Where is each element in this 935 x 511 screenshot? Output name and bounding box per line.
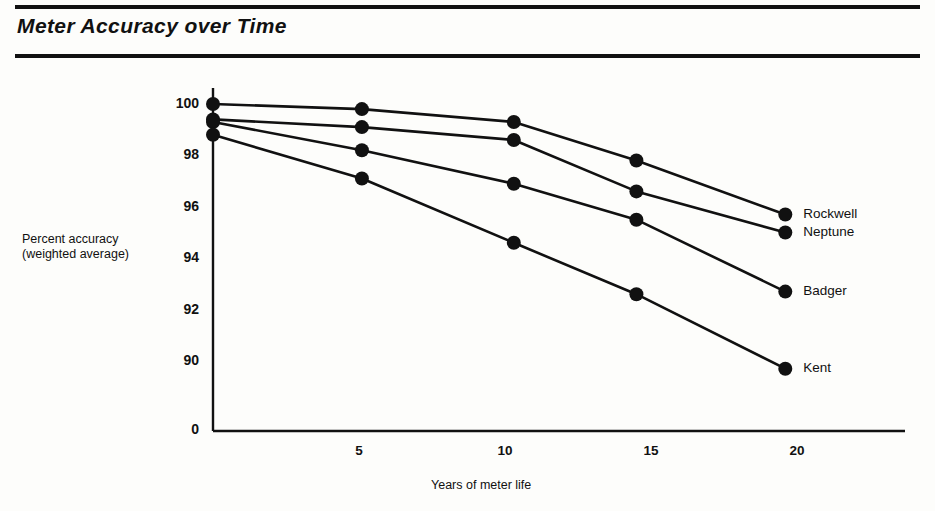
data-point-neptune-4 — [778, 226, 792, 240]
data-point-badger-4 — [778, 285, 792, 299]
data-point-rockwell-2 — [507, 115, 521, 129]
x-tick-label-20: 20 — [777, 443, 817, 458]
data-point-kent-0 — [206, 128, 220, 142]
line-chart-plot — [0, 0, 935, 511]
y-tick-label-100: 100 — [155, 95, 199, 111]
chart-series — [206, 97, 792, 376]
y-axis-title-line-1: Percent accuracy — [22, 232, 129, 247]
series-label-rockwell: Rockwell — [803, 206, 857, 221]
data-point-rockwell-3 — [629, 154, 643, 168]
x-tick-label-5: 5 — [339, 443, 379, 458]
series-line-kent — [213, 135, 785, 369]
x-axis-title: Years of meter life — [431, 478, 531, 492]
x-tick-label-10: 10 — [485, 443, 525, 458]
y-tick-label-90: 90 — [155, 352, 199, 368]
header-rule-bottom — [15, 54, 920, 58]
data-point-neptune-2 — [507, 133, 521, 147]
series-label-badger: Badger — [803, 283, 847, 298]
header-rule-top — [15, 5, 920, 9]
data-point-badger-3 — [629, 213, 643, 227]
y-axis-title-line-2: (weighted average) — [22, 247, 129, 262]
data-point-badger-1 — [355, 143, 369, 157]
y-tick-label-0: 0 — [155, 421, 199, 437]
page-title: Meter Accuracy over Time — [17, 14, 287, 38]
y-tick-label-94: 94 — [155, 249, 199, 265]
series-label-kent: Kent — [803, 360, 831, 375]
x-tick-label-15: 15 — [631, 443, 671, 458]
data-point-kent-4 — [778, 362, 792, 376]
data-point-neptune-0 — [206, 112, 220, 126]
y-tick-label-96: 96 — [155, 198, 199, 214]
data-point-kent-1 — [355, 172, 369, 186]
data-point-neptune-3 — [629, 184, 643, 198]
data-point-rockwell-0 — [206, 97, 220, 111]
y-tick-label-92: 92 — [155, 301, 199, 317]
chart-axes — [213, 88, 905, 431]
series-line-neptune — [213, 119, 785, 232]
data-point-badger-0 — [206, 115, 220, 129]
series-line-badger — [213, 122, 785, 292]
data-point-rockwell-1 — [355, 102, 369, 116]
y-axis-title: Percent accuracy (weighted average) — [22, 232, 129, 262]
data-point-badger-2 — [507, 177, 521, 191]
series-label-neptune: Neptune — [803, 224, 854, 239]
data-point-neptune-1 — [355, 120, 369, 134]
series-line-rockwell — [213, 104, 785, 215]
data-point-kent-3 — [629, 287, 643, 301]
y-tick-label-98: 98 — [155, 146, 199, 162]
page-canvas: Meter Accuracy over Time Percent accurac… — [0, 0, 935, 511]
data-point-kent-2 — [507, 236, 521, 250]
data-point-rockwell-4 — [778, 208, 792, 222]
